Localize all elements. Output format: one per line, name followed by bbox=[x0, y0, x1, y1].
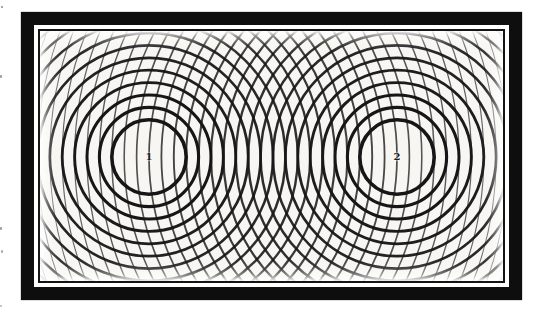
scanned-page: 1 2 bbox=[0, 0, 537, 318]
scan-speck bbox=[1, 250, 3, 253]
source-1-label: 1 bbox=[146, 152, 153, 162]
frame-inner-rule: 1 2 bbox=[38, 29, 505, 283]
figure-frame: 1 2 bbox=[21, 12, 522, 300]
scan-speck bbox=[1, 6, 3, 8]
wavefront-ring-source-2 bbox=[161, 31, 503, 281]
interference-pattern: 1 2 bbox=[40, 31, 503, 281]
scan-speck bbox=[0, 305, 2, 307]
scan-speck bbox=[0, 227, 2, 230]
wavefront-ring-source-1 bbox=[40, 31, 422, 281]
frame-keyline: 1 2 bbox=[34, 25, 509, 287]
wavefront-circles bbox=[40, 31, 503, 281]
scan-speck bbox=[0, 75, 2, 78]
source-2-label: 2 bbox=[394, 152, 401, 162]
wavefront-ring-source-2 bbox=[223, 31, 503, 281]
